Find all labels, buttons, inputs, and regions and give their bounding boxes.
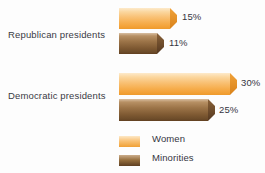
value-label-democratic-women: 30% (241, 77, 260, 88)
legend-label-women: Women (152, 133, 185, 144)
group-label-democratic: Democratic presidents (8, 90, 106, 101)
bar-chart: Republican presidents Democratic preside… (0, 0, 265, 173)
bar-republican-women (119, 8, 177, 29)
bar-democratic-minorities (119, 99, 215, 121)
legend-swatch-minorities-icon (119, 152, 140, 163)
group-label-republican: Republican presidents (8, 29, 105, 40)
value-label-republican-minorities: 11% (169, 37, 188, 48)
value-label-democratic-minorities: 25% (219, 104, 238, 115)
legend-swatch-women-icon (119, 133, 140, 144)
chart-legend: Women Minorities (119, 131, 194, 169)
value-label-republican-women: 15% (182, 11, 201, 22)
bar-republican-minorities (119, 33, 164, 54)
legend-item-women: Women (119, 131, 194, 146)
legend-item-minorities: Minorities (119, 150, 194, 165)
legend-label-minorities: Minorities (152, 152, 194, 163)
bar-democratic-women (119, 73, 237, 95)
